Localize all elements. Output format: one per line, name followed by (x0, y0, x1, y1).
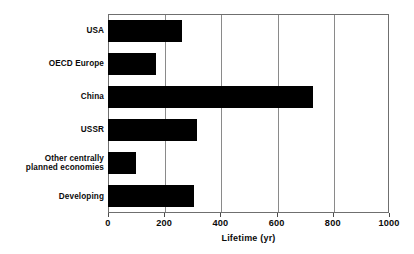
category-label-line: USA (86, 26, 104, 35)
bars-layer (108, 14, 389, 213)
bar (108, 20, 182, 42)
category-label: Other centrallyplanned economies (0, 154, 104, 173)
tick-mark-400 (220, 213, 221, 217)
tick-mark-1000 (389, 213, 390, 217)
category-label-line: OECD Europe (49, 59, 104, 68)
category-label-line: USSR (81, 125, 104, 134)
bar (108, 53, 156, 75)
bar (108, 119, 197, 141)
tick-mark-800 (333, 213, 334, 217)
category-label: USA (0, 26, 104, 36)
tick-mark-0 (108, 213, 109, 217)
x-tick-label: 400 (212, 218, 228, 228)
category-label: China (0, 92, 104, 102)
bar (108, 152, 136, 174)
category-label: Developing (0, 192, 104, 202)
bar (108, 185, 194, 207)
category-label-line: Developing (59, 192, 104, 201)
category-label: OECD Europe (0, 59, 104, 69)
x-tick-label: 1000 (378, 218, 399, 228)
x-tick-label: 800 (325, 218, 341, 228)
category-label-line: planned economies (0, 163, 104, 173)
category-label-line: Other centrally (45, 154, 104, 163)
x-axis-title: Lifetime (yr) (108, 233, 389, 243)
x-tick-label: 600 (269, 218, 285, 228)
category-label: USSR (0, 125, 104, 135)
horizontal-bar-chart: USAOECD EuropeChinaUSSROther centrallypl… (0, 0, 414, 254)
category-label-line: China (81, 92, 104, 101)
bar (108, 86, 313, 108)
tick-mark-600 (277, 213, 278, 217)
x-tick-label: 0 (105, 218, 110, 228)
x-tick-label: 200 (156, 218, 172, 228)
category-axis-labels: USAOECD EuropeChinaUSSROther centrallypl… (0, 14, 104, 213)
tick-mark-200 (164, 213, 165, 217)
